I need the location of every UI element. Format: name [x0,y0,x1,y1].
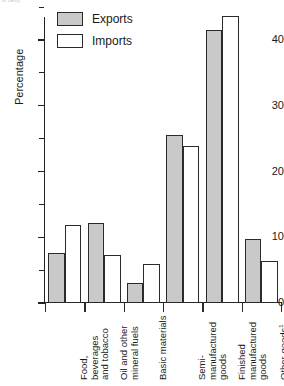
footnote-marker: 1 [277,324,284,327]
bar-imports-0 [65,225,82,303]
bar-chart: Percentage 010203040 Food, beverages and… [0,0,284,386]
legend-item-imports: Imports [57,31,133,51]
bar-exports-2 [127,283,144,303]
legend-label: Exports [92,13,133,25]
x-category-label-2: Basic materials [158,310,188,380]
x-category-label-3: Semi- manufactured goods [197,310,227,380]
bar-imports-5 [261,261,278,303]
bar-imports-4 [222,16,239,303]
legend-item-exports: Exports [57,9,133,29]
y-tick-minor [39,138,44,139]
legend-swatch-imports [57,34,83,48]
y-tick-minor [39,204,44,205]
legend: ExportsImports [57,9,133,53]
y-tick-label: 30 [248,100,284,111]
bar-exports-3 [166,135,183,303]
legend-label: Imports [92,35,132,47]
bar-imports-1 [104,255,121,303]
bar-exports-4 [206,30,223,303]
y-tick-major [38,302,44,303]
y-tick-minor [39,72,44,73]
bar-exports-1 [88,223,105,303]
y-axis-title: Percentage [14,49,25,105]
y-tick-major [38,237,44,238]
legend-swatch-exports [57,12,83,26]
category-separator [45,303,46,312]
x-category-label-5: Other goods1 [276,310,284,380]
y-axis-line [44,17,45,304]
bar-imports-3 [183,146,200,303]
y-tick-minor [39,270,44,271]
y-tick-major [38,105,44,106]
y-tick-label: 40 [248,34,284,45]
x-category-label-4: Finished manufactured goods [237,310,267,380]
y-tick-major [38,171,44,172]
bar-exports-5 [245,239,262,303]
x-category-label-1: Oil and other mineral fuels [119,310,149,380]
y-tick-label: 20 [248,166,284,177]
bar-exports-0 [48,253,65,303]
y-tick-major [38,39,44,40]
x-category-label-0: Food, beverages and tobacco [79,310,109,380]
y-tick-minor [39,7,44,8]
bar-imports-2 [143,264,160,303]
